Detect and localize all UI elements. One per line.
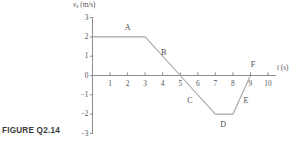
x-tick-label: 8: [226, 79, 240, 88]
velocity-time-graph: [0, 0, 302, 143]
point-label-a: A: [122, 23, 134, 32]
figure-caption: FIGURE Q2.14: [2, 126, 60, 135]
point-label-b: B: [158, 48, 170, 57]
x-tick-label: 5: [173, 79, 187, 88]
x-tick-label: 7: [208, 79, 222, 88]
y-tick-label: 2: [77, 32, 89, 41]
y-tick-label: 3: [77, 13, 89, 22]
y-tick-label: −3: [77, 129, 89, 138]
x-axis-unit: (s): [279, 64, 288, 72]
x-tick-label: 4: [156, 79, 170, 88]
point-label-d: D: [217, 120, 229, 129]
x-tick-label: 6: [191, 79, 205, 88]
x-tick-label: 9: [243, 79, 257, 88]
figure-container: vx (m/s) t (s) 123456789103210−1−2−3 ABC…: [0, 0, 302, 143]
y-tick-label: 1: [77, 51, 89, 60]
y-tick-label: −1: [77, 90, 89, 99]
y-tick-label: 0: [77, 71, 89, 80]
point-label-e: E: [240, 96, 252, 105]
x-tick-label: 1: [103, 79, 117, 88]
point-label-c: C: [184, 96, 196, 105]
x-tick-label: 10: [261, 79, 275, 88]
x-tick-label: 3: [138, 79, 152, 88]
x-tick-label: 2: [121, 79, 135, 88]
y-axis-unit: (m/s): [79, 1, 96, 9]
point-label-f: F: [247, 60, 259, 69]
x-axis-title: t (s): [277, 64, 288, 72]
y-tick-label: −2: [77, 109, 89, 118]
y-axis-title: vx (m/s): [73, 1, 95, 9]
